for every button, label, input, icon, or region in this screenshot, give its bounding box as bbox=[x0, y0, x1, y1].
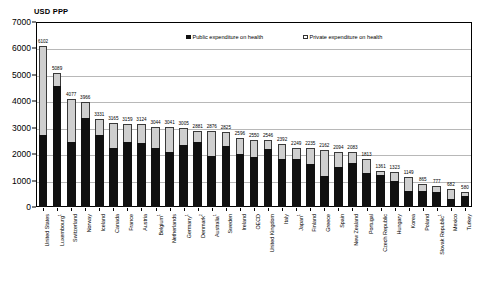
y-axis-tick-label: 5000 bbox=[12, 70, 31, 80]
bar bbox=[348, 152, 357, 207]
bar-value-label: 2881 bbox=[193, 125, 203, 130]
bar-value-label: 580 bbox=[461, 186, 469, 191]
bar bbox=[461, 192, 470, 207]
x-axis-tick-mark bbox=[170, 208, 171, 211]
x-axis-labels: United StatesLuxembourg1SwitzerlandNorwa… bbox=[36, 208, 472, 286]
bar-segment-public bbox=[292, 159, 301, 207]
x-axis-tick-mark bbox=[141, 208, 142, 211]
x-axis-tick-mark bbox=[409, 208, 410, 211]
x-axis-category-label: Germany1 bbox=[186, 214, 192, 238]
bar-value-label: 2083 bbox=[347, 146, 357, 151]
x-axis-category-label: Switzerland bbox=[73, 214, 78, 242]
bar bbox=[390, 172, 399, 207]
x-axis-category-label: Sweden bbox=[228, 214, 233, 233]
x-axis-category-label: Hungary bbox=[397, 214, 402, 234]
chart-axis-title: USD PPP bbox=[34, 7, 68, 16]
x-axis-category-label: Ireland bbox=[242, 214, 247, 230]
bar bbox=[376, 171, 385, 207]
bar-value-label: 3005 bbox=[179, 122, 189, 127]
bar-value-label: 3331 bbox=[94, 113, 104, 118]
x-axis-category-label: United States bbox=[45, 214, 50, 246]
bar bbox=[432, 186, 441, 207]
bar bbox=[179, 128, 188, 207]
x-axis-category-label: Mexico bbox=[453, 214, 458, 231]
x-axis-tick-mark bbox=[254, 208, 255, 211]
legend-swatch-public-icon bbox=[186, 35, 191, 40]
x-axis-tick-mark bbox=[381, 208, 382, 211]
bar-value-label: 2249 bbox=[291, 142, 301, 147]
bar-segment-private bbox=[404, 177, 413, 191]
y-axis-tick-label: 3000 bbox=[12, 123, 31, 133]
bar-segment-private bbox=[137, 124, 146, 142]
x-axis-category-label: Denmark2 bbox=[200, 214, 206, 238]
bar-segment-public bbox=[109, 148, 118, 207]
bar-segment-private bbox=[348, 152, 357, 163]
bar-segment-public bbox=[418, 191, 427, 207]
y-axis-tick-label: 0 bbox=[26, 202, 31, 212]
x-axis-category-label: Luxembourg1 bbox=[59, 214, 65, 246]
bar-value-label: 3124 bbox=[136, 118, 146, 123]
x-axis-tick-mark bbox=[212, 208, 213, 211]
bar-segment-private bbox=[278, 144, 287, 159]
x-axis-tick-mark bbox=[296, 208, 297, 211]
x-axis-category-label: Turkey bbox=[467, 214, 472, 230]
x-axis-category-label: Norway bbox=[87, 214, 92, 232]
bar-segment-public bbox=[278, 159, 287, 207]
bar bbox=[264, 140, 273, 207]
bar bbox=[404, 177, 413, 207]
x-axis-category-label: Australia1 bbox=[214, 214, 220, 237]
bar-value-label: 5089 bbox=[52, 67, 62, 72]
bar-value-label: 1323 bbox=[390, 166, 400, 171]
bar-segment-private bbox=[362, 159, 371, 173]
x-axis-category-label: OECD bbox=[256, 214, 261, 230]
bar-segment-private bbox=[222, 132, 231, 146]
y-axis-tick-label: 1000 bbox=[12, 176, 31, 186]
x-axis-category-label: United Kingdom bbox=[270, 214, 275, 252]
bar-segment-public bbox=[362, 173, 371, 207]
bar-segment-public bbox=[165, 152, 174, 207]
bar bbox=[193, 131, 202, 207]
bar-segment-public bbox=[123, 142, 132, 207]
bar-value-label: 3159 bbox=[122, 118, 132, 123]
x-axis-tick-mark bbox=[71, 208, 72, 211]
bar-segment-public bbox=[179, 145, 188, 207]
x-axis-tick-mark bbox=[324, 208, 325, 211]
x-axis-tick-mark bbox=[198, 208, 199, 211]
bar bbox=[362, 159, 371, 207]
bar-value-label: 2550 bbox=[249, 134, 259, 139]
bar-segment-public bbox=[264, 149, 273, 207]
bar bbox=[292, 148, 301, 207]
bar-segment-private bbox=[53, 73, 62, 86]
bar-value-label: 682 bbox=[447, 183, 455, 188]
x-axis-tick-mark bbox=[184, 208, 185, 211]
bar-segment-public bbox=[67, 142, 76, 207]
bar bbox=[95, 119, 104, 207]
bar-segment-private bbox=[250, 140, 259, 158]
bar-segment-private bbox=[81, 102, 90, 118]
bar-segment-public bbox=[39, 135, 48, 207]
bar-segment-public bbox=[151, 148, 160, 207]
bar-segment-public bbox=[447, 199, 456, 207]
x-axis-tick-mark bbox=[451, 208, 452, 211]
y-axis-tick-label: 6000 bbox=[12, 43, 31, 53]
y-axis-tick-label: 4000 bbox=[12, 96, 31, 106]
legend-label-private: Private expenditure on health bbox=[310, 34, 383, 40]
bar-value-label: 3041 bbox=[164, 121, 174, 126]
bar-value-label: 2094 bbox=[333, 146, 343, 151]
x-axis-tick-mark bbox=[423, 208, 424, 211]
bar-value-label: 4077 bbox=[66, 93, 76, 98]
bar-value-label: 2876 bbox=[207, 125, 217, 130]
bar-segment-public bbox=[222, 146, 231, 207]
bar bbox=[334, 152, 343, 207]
bar bbox=[207, 131, 216, 207]
bar-segment-public bbox=[320, 176, 329, 207]
x-axis-tick-mark bbox=[282, 208, 283, 211]
legend-label-public: Public expenditure on health bbox=[193, 34, 264, 40]
bar-segment-public bbox=[348, 163, 357, 207]
bar bbox=[447, 189, 456, 207]
x-axis-tick-mark bbox=[99, 208, 100, 211]
bar-segment-public bbox=[404, 191, 413, 207]
x-axis-tick-mark bbox=[240, 208, 241, 211]
bar bbox=[222, 132, 231, 207]
bar bbox=[109, 123, 118, 207]
